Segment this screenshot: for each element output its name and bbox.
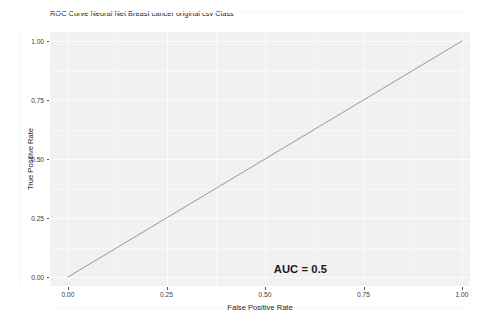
page-title: ROC Curve Neural Net Breast cancer origi… xyxy=(50,9,234,18)
y-tick-mark xyxy=(47,159,50,160)
gridline-horizontal xyxy=(50,12,470,13)
x-tick-label: 0.25 xyxy=(160,291,173,298)
y-tick-mark xyxy=(47,277,50,278)
y-tick-mark xyxy=(47,41,50,42)
x-tick-label: 1.00 xyxy=(456,291,469,298)
auc-annotation: AUC = 0.5 xyxy=(274,263,327,275)
x-tick-mark xyxy=(68,287,69,290)
y-tick-mark xyxy=(47,100,50,101)
gridline-vertical xyxy=(19,32,20,286)
x-tick-label: 0.75 xyxy=(357,291,370,298)
x-tick-mark xyxy=(462,287,463,290)
roc-diagonal-line xyxy=(50,32,470,286)
x-tick-mark xyxy=(265,287,266,290)
y-tick-label: 1.00 xyxy=(22,38,44,45)
y-tick-label: 0.75 xyxy=(22,97,44,104)
data-area xyxy=(50,32,470,286)
roc-line-path xyxy=(68,41,462,277)
y-tick-mark xyxy=(47,218,50,219)
y-tick-label: 0.25 xyxy=(22,215,44,222)
y-tick-label: 0.00 xyxy=(22,274,44,281)
roc-curve-chart: ROC Curve Neural Net Breast cancer origi… xyxy=(0,0,504,328)
x-tick-mark xyxy=(364,287,365,290)
x-tick-label: 0.00 xyxy=(62,291,75,298)
plot-panel: AUC = 0.5 xyxy=(50,32,470,286)
y-axis-title: True Positive Rate xyxy=(26,128,35,190)
x-tick-mark xyxy=(167,287,168,290)
x-tick-label: 0.50 xyxy=(259,291,272,298)
x-axis-title: False Positive Rate xyxy=(0,303,504,312)
